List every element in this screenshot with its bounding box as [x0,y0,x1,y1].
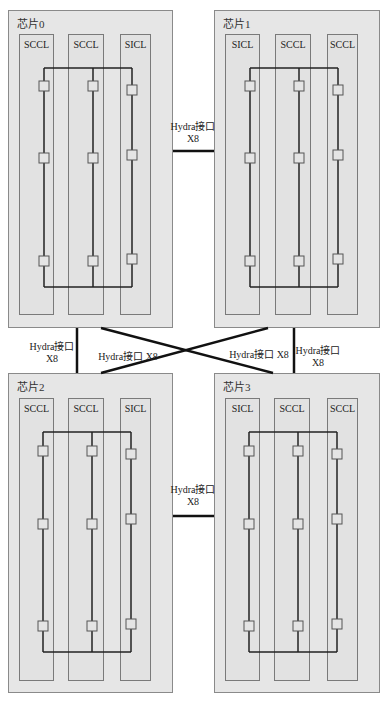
cluster-label: SCCL [328,403,357,414]
cluster-label: SCCL [328,39,357,50]
hydra-link-label: Hydra接口X8 [171,121,216,145]
cluster-sccl: SCCL [68,34,104,315]
chip-title: 芯片2 [17,378,45,394]
cluster-sccl: SCCL [327,34,358,315]
cluster-label: SICL [226,403,259,414]
link-label-line1: Hydra接口 [171,121,216,133]
cluster-label: SICL [121,403,150,414]
cluster-label: SCCL [20,39,53,50]
link-label-line1: Hydra接口 [30,341,75,353]
link-label-line2: X8 [296,357,341,369]
hydra-link-label: Hydra接口 X8 [229,349,289,361]
hydra-link-label: Hydra接口X8 [296,345,341,369]
link-label-line1: Hydra接口 X8 [229,349,289,361]
hydra-link-label: Hydra接口X8 [30,341,75,365]
cluster-sccl: SCCL [68,398,104,681]
link-label-line2: X8 [30,353,75,365]
chip-title: 芯片3 [223,378,251,394]
cluster-sccl: SCCL [19,398,54,681]
cluster-label: SCCL [20,403,53,414]
hydra-link-label: Hydra接口 X8 [98,351,158,363]
cluster-sccl: SCCL [327,398,358,681]
cluster-label: SICL [121,39,150,50]
cluster-label: SCCL [276,39,310,50]
cluster-label: SCCL [69,403,103,414]
link-label-line1: Hydra接口 [171,484,216,496]
cluster-label: SCCL [69,39,103,50]
hydra-link-label: Hydra接口X8 [171,484,216,508]
cluster-label: SICL [226,39,259,50]
cluster-sccl: SCCL [19,34,54,315]
cluster-label: SCCL [275,403,309,414]
link-label-line2: X8 [171,133,216,145]
link-label-line1: Hydra接口 X8 [98,351,158,363]
chip-title: 芯片0 [17,15,45,31]
cluster-sccl: SCCL [275,34,311,315]
link-label-line1: Hydra接口 [296,345,341,357]
cluster-sicl: SICL [120,398,151,681]
link-label-line2: X8 [171,496,216,508]
cluster-sccl: SCCL [274,398,310,681]
cluster-sicl: SICL [120,34,151,315]
cluster-sicl: SICL [225,34,260,315]
chip-title: 芯片1 [223,15,251,31]
cluster-sicl: SICL [225,398,260,681]
